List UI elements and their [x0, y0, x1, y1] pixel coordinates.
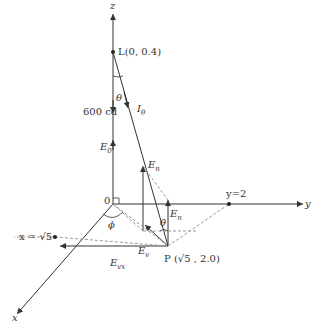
- source-label: L(0, 0.4): [118, 47, 161, 57]
- en-mid-label: En: [170, 209, 182, 222]
- en-top-label: En: [148, 160, 160, 173]
- evx-label: Evx: [110, 258, 125, 271]
- y-axis-label: y: [305, 199, 311, 209]
- x-axis: [17, 204, 113, 314]
- intensity-label: 600 cd: [83, 107, 117, 117]
- ev-label: Ev: [138, 246, 149, 259]
- theta-label: θ: [116, 93, 122, 103]
- origin-label: 0: [104, 196, 110, 206]
- y-mark-label: y=2: [226, 189, 246, 199]
- illuminance-diagram: z y x L(0, 0.4) θ Iθ 600 cd E0 En En 0 ϕ…: [0, 0, 316, 323]
- z-axis-label: z: [110, 1, 115, 11]
- point-p-label: P (√5 , 2.0): [164, 254, 220, 264]
- x-mark-label: x = √5: [19, 232, 52, 242]
- theta-p-label: θ: [160, 218, 166, 228]
- phi-label: ϕ: [108, 220, 115, 230]
- e0-label: E0: [100, 142, 112, 155]
- i-theta-label: Iθ: [137, 104, 145, 117]
- x-axis-label: x: [12, 313, 18, 323]
